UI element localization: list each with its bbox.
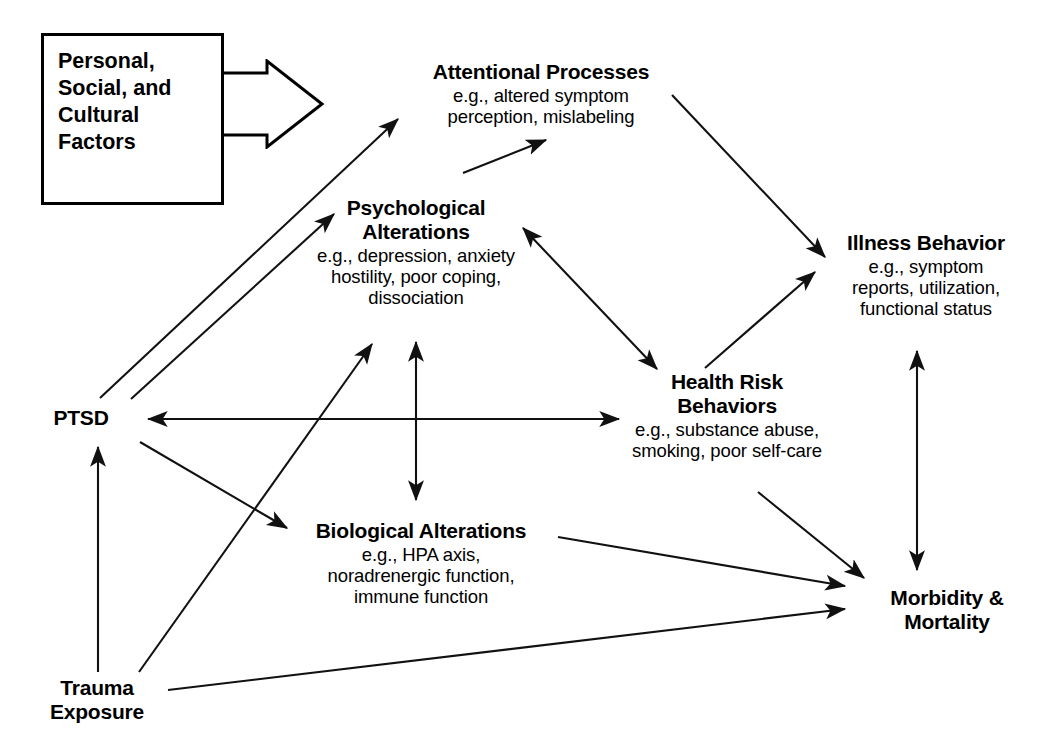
biological-alterations-detail-line-1: e.g., HPA axis, <box>286 544 556 565</box>
factors-line-4: Factors <box>58 129 172 156</box>
ptsd-health-model-diagram: Personal, Social, and Cultural Factors A… <box>0 0 1052 753</box>
biological-alterations-title: Biological Alterations <box>286 519 556 543</box>
psychological-alterations-detail-line-3: dissociation <box>286 287 546 308</box>
node-psychological-alterations: Psychological Alterations e.g., depressi… <box>286 196 546 308</box>
node-morbidity-mortality: Morbidity & Mortality <box>852 586 1042 634</box>
illness-behavior-detail: e.g., symptom reports, utilization, func… <box>820 256 1032 319</box>
psychological-alterations-detail-line-1: e.g., depression, anxiety <box>286 245 546 266</box>
personal-social-cultural-factors-box: Personal, Social, and Cultural Factors <box>41 33 224 205</box>
factors-line-2: Social, and <box>58 75 172 102</box>
health-risk-behaviors-detail-line-2: smoking, poor self-care <box>602 440 852 461</box>
edge-biological-alterations-to-morbidity-mortality <box>558 537 845 586</box>
health-risk-behaviors-title-line-1: Health Risk <box>602 370 852 394</box>
morbidity-mortality-title-line-1: Morbidity & <box>852 586 1042 610</box>
biological-alterations-detail: e.g., HPA axis, noradrenergic function, … <box>286 544 556 607</box>
psychological-alterations-title: Psychological Alterations <box>286 196 546 244</box>
morbidity-mortality-title-line-2: Mortality <box>852 610 1042 634</box>
trauma-exposure-title-line-1: Trauma <box>12 676 182 700</box>
biological-alterations-detail-line-2: noradrenergic function, <box>286 565 556 586</box>
biological-alterations-detail-line-3: immune function <box>286 586 556 607</box>
node-biological-alterations: Biological Alterations e.g., HPA axis, n… <box>286 519 556 607</box>
attentional-processes-detail-line-2: perception, mislabeling <box>396 106 686 127</box>
health-risk-behaviors-title-line-2: Behaviors <box>602 394 852 418</box>
morbidity-mortality-title: Morbidity & Mortality <box>852 586 1042 634</box>
node-attentional-processes: Attentional Processes e.g., altered symp… <box>396 60 686 127</box>
personal-social-cultural-factors-label: Personal, Social, and Cultural Factors <box>58 48 172 156</box>
edge-health-risk-behaviors-to-morbidity-mortality <box>758 492 864 578</box>
node-ptsd: PTSD <box>26 406 136 430</box>
illness-behavior-detail-line-1: e.g., symptom <box>820 256 1032 277</box>
node-health-risk-behaviors: Health Risk Behaviors e.g., substance ab… <box>602 370 852 461</box>
attentional-processes-detail-line-1: e.g., altered symptom <box>396 85 686 106</box>
edge-trauma-exposure-to-morbidity-mortality <box>168 609 845 690</box>
edge-attentional-processes-to-illness-behavior <box>672 95 825 257</box>
psychological-alterations-title-line-2: Alterations <box>286 220 546 244</box>
node-trauma-exposure: Trauma Exposure <box>12 676 182 724</box>
block-arrow-icon <box>215 59 325 149</box>
factors-line-3: Cultural <box>58 102 172 129</box>
edge-psychological-alterations-to-attentional-processes <box>463 140 546 173</box>
psychological-alterations-detail-line-2: hostility, poor coping, <box>286 266 546 287</box>
node-illness-behavior: Illness Behavior e.g., symptom reports, … <box>820 231 1032 319</box>
health-risk-behaviors-detail: e.g., substance abuse, smoking, poor sel… <box>602 419 852 461</box>
edge-ptsd-to-biological-alterations <box>140 442 287 528</box>
attentional-processes-detail: e.g., altered symptom perception, mislab… <box>396 85 686 127</box>
illness-behavior-detail-line-3: functional status <box>820 298 1032 319</box>
trauma-exposure-title-line-2: Exposure <box>12 700 182 724</box>
trauma-exposure-title: Trauma Exposure <box>12 676 182 724</box>
health-risk-behaviors-title: Health Risk Behaviors <box>602 370 852 418</box>
illness-behavior-detail-line-2: reports, utilization, <box>820 277 1032 298</box>
edge-health-risk-behaviors-to-illness-behavior <box>705 272 815 368</box>
psychological-alterations-detail: e.g., depression, anxiety hostility, poo… <box>286 245 546 308</box>
health-risk-behaviors-detail-line-1: e.g., substance abuse, <box>602 419 852 440</box>
illness-behavior-title: Illness Behavior <box>820 231 1032 255</box>
ptsd-title: PTSD <box>26 406 136 430</box>
factors-line-1: Personal, <box>58 48 172 75</box>
attentional-processes-title: Attentional Processes <box>396 60 686 84</box>
edge-trauma-exposure-to-psychological-alterations <box>139 344 372 672</box>
psychological-alterations-title-line-1: Psychological <box>286 196 546 220</box>
